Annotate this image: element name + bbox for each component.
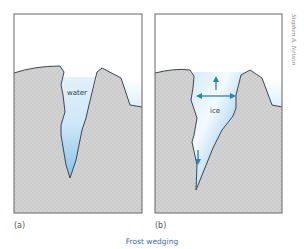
figure-caption: Frost wedging bbox=[0, 237, 304, 246]
frost-wedging-figure: water ice (a) (b) Stephen A. Nelson Fros… bbox=[0, 0, 304, 249]
panel-b-label: (b) bbox=[155, 221, 166, 230]
ice-label: ice bbox=[210, 107, 220, 115]
panel-a-label: (a) bbox=[14, 221, 25, 230]
water-label: water bbox=[67, 89, 87, 97]
photo-credit: Stephen A. Nelson bbox=[284, 14, 298, 74]
panel-b: ice bbox=[155, 14, 282, 213]
panel-a: water bbox=[14, 14, 142, 213]
diagram-canvas: water ice bbox=[0, 0, 304, 249]
